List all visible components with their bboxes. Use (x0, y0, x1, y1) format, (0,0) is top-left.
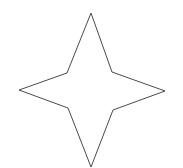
figure-canvas (0, 0, 183, 168)
four-pointed-star-outline (19, 13, 165, 167)
star-svg (0, 0, 183, 168)
